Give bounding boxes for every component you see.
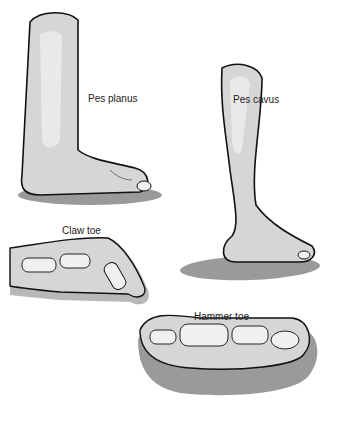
label-pes-planus: Pes planus — [88, 93, 137, 104]
hammer-toe-illustration — [138, 315, 317, 395]
claw-toe-illustration — [10, 238, 149, 305]
label-pes-cavus: Pes cavus — [233, 94, 279, 105]
label-hammer-toe: Hammer toe — [194, 311, 249, 322]
label-claw-toe: Claw toe — [62, 225, 101, 236]
foot-deformities-illustration — [0, 0, 339, 425]
pes-planus-illustration — [18, 13, 162, 205]
